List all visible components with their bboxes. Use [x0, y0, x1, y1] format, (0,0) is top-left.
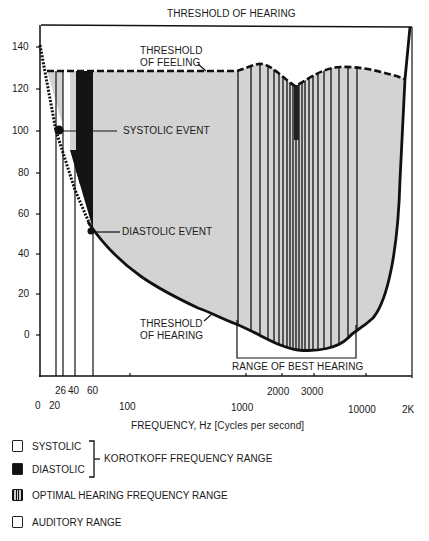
legend-optimal-label: OPTIMAL HEARING FREQUENCY RANGE [32, 490, 228, 501]
optimal-hatch-swatch-icon [12, 489, 23, 501]
legend-auditory-label: AUDITORY RANGE [32, 517, 121, 528]
auditory-swatch-icon [12, 516, 23, 528]
legend-optimal: OPTIMAL HEARING FREQUENCY RANGE [12, 489, 228, 501]
legend-korotkoff-label: KOROTKOFF FREQUENCY RANGE [104, 453, 272, 464]
legend-auditory: AUDITORY RANGE [12, 516, 121, 528]
